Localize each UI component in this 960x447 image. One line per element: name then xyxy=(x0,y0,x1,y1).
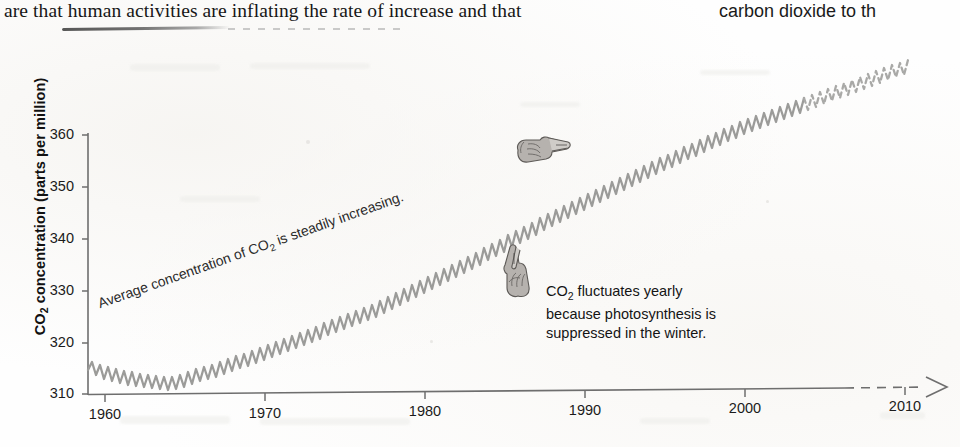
annotation-fluct-line-1: CO2 fluctuates yearly xyxy=(546,282,716,305)
x-axis-arrowhead xyxy=(926,377,947,397)
pointing-hand-right-icon xyxy=(512,128,574,174)
x-tick-label-1970: 1970 xyxy=(237,405,293,421)
x-axis-projection-dashed xyxy=(845,387,925,388)
y-tick-label-310: 310 xyxy=(40,385,74,401)
x-axis-line xyxy=(88,388,845,395)
x-tick-label-2000: 2000 xyxy=(717,400,773,416)
page-body-text-left: are that human activities are inflating … xyxy=(4,0,521,22)
y-tick-label-340: 340 xyxy=(40,230,74,246)
co2-curve-observed xyxy=(88,98,804,390)
annotation-fluct-co: CO xyxy=(546,283,568,299)
x-tick-label-1980: 1980 xyxy=(397,403,453,419)
y-axis-ticks xyxy=(82,135,88,394)
annotation-fluct-line-3: suppressed in the winter. xyxy=(546,324,716,343)
y-tick-label-320: 320 xyxy=(40,334,74,350)
y-axis-title-co: CO xyxy=(32,313,48,335)
y-tick-label-330: 330 xyxy=(40,282,74,298)
page-body-text-right: carbon dioxide to th xyxy=(719,1,876,22)
pointing-hand-up-icon xyxy=(497,241,543,307)
co2-concentration-chart: CO2 concentration (parts per million) 36… xyxy=(0,45,960,447)
x-tick-label-1990: 1990 xyxy=(557,402,613,418)
chart-plot-area xyxy=(0,45,960,447)
annotation-fluct-line-2: because photosynthesis is xyxy=(546,305,716,324)
x-tick-label-1960: 1960 xyxy=(77,406,133,422)
x-tick-label-2010: 2010 xyxy=(877,398,933,414)
handwritten-underline-faded xyxy=(228,28,403,30)
annotation-fluct-rest: fluctuates yearly xyxy=(574,283,683,299)
annotation-seasonal-fluctuation: CO2 fluctuates yearly because photosynth… xyxy=(546,282,716,342)
y-axis-title-subscript: 2 xyxy=(38,307,50,313)
y-tick-label-350: 350 xyxy=(40,178,74,194)
y-tick-label-360: 360 xyxy=(40,126,74,142)
y-axis-title: CO2 concentration (parts per million) xyxy=(32,61,51,351)
co2-curve-projection xyxy=(804,60,908,110)
